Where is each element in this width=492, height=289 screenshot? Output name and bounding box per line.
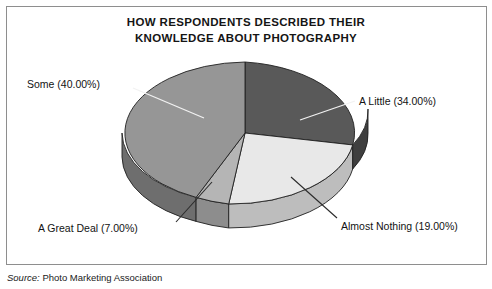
source-text: Photo Marketing Association xyxy=(42,272,162,283)
chart-page: HOW RESPONDENTS DESCRIBED THEIR KNOWLEDG… xyxy=(0,0,492,289)
pie-label-some: Some (40.00%) xyxy=(27,78,100,91)
pie-label-a-great-deal: A Great Deal (7.00%) xyxy=(38,222,138,235)
pie-label-a-little: A Little (34.00%) xyxy=(359,95,436,108)
slice-top-a-little xyxy=(245,62,355,145)
pie-label-almost-nothing: Almost Nothing (19.00%) xyxy=(341,220,458,233)
slice-side-a-little xyxy=(353,109,368,169)
source-prefix: Source: xyxy=(7,272,40,283)
source-note: Source: Photo Marketing Association xyxy=(7,272,162,283)
